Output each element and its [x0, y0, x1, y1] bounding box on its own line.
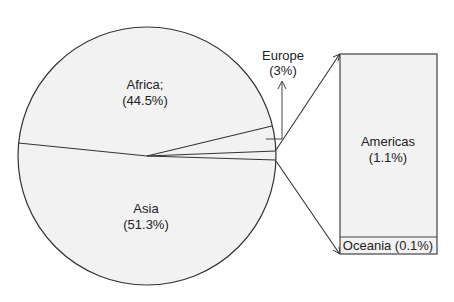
africa-label: Africa;: [127, 77, 164, 92]
connector-bottom: [276, 161, 339, 253]
asia-percent: (51.3%): [123, 217, 169, 232]
connector-bottom-arrowhead-icon: [333, 247, 340, 254]
asia-label: Asia: [133, 201, 159, 216]
africa-percent: (44.5%): [122, 93, 168, 108]
europe-percent: (3%): [269, 63, 296, 78]
oceania-label: Oceania (0.1%): [343, 238, 433, 253]
americas-label: Americas: [361, 134, 416, 149]
europe-label: Europe: [262, 48, 304, 63]
americas-percent: (1.1%): [369, 150, 407, 165]
bar-of-pie-chart: Africa; (44.5%) Asia (51.3%) Europe (3%)…: [0, 0, 454, 302]
